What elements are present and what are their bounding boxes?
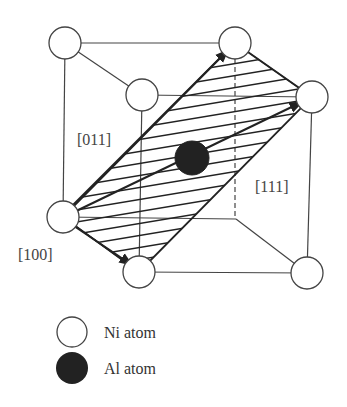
ni-atom — [126, 79, 158, 111]
legend: Ni atom Al atom — [56, 317, 157, 384]
label-100: [100] — [18, 246, 53, 263]
ni-atom — [291, 257, 323, 289]
label-011: [011] — [77, 131, 111, 148]
legend-al-label: Al atom — [104, 360, 157, 377]
ni-atom — [296, 81, 328, 113]
unit-cell-diagram: [011] [111] [100] Ni atom Al atom — [0, 0, 347, 407]
arrow-100 — [68, 222, 132, 265]
ni-atom — [123, 256, 155, 288]
legend-ni-label: Ni atom — [104, 324, 157, 341]
label-111: [111] — [255, 178, 288, 195]
al-atom — [175, 141, 209, 175]
ni-atom — [47, 201, 79, 233]
legend-al-icon — [56, 352, 88, 384]
ni-atom — [219, 27, 251, 59]
legend-ni-icon — [57, 317, 87, 347]
ni-atom — [49, 27, 81, 59]
